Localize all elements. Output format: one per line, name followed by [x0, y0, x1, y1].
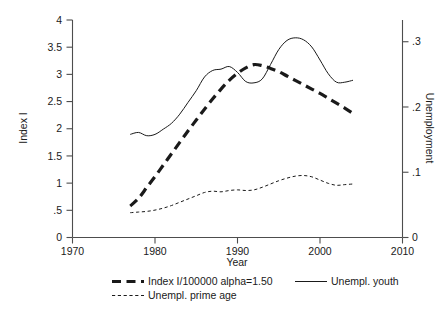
y-tick-label: 0	[56, 231, 62, 243]
legend-label-2: Unempl. prime age	[148, 289, 237, 301]
x-tick-label: 2010	[391, 245, 415, 257]
y2-tick-label: .3	[412, 35, 421, 47]
x-tick-label: 2000	[308, 245, 332, 257]
y-tick-label: .5	[53, 204, 62, 216]
y2-tick-label: .2	[412, 101, 421, 113]
y2-tick-label: 0	[412, 231, 418, 243]
x-tick-label: 1980	[143, 245, 167, 257]
y-tick-label: 3	[56, 68, 62, 80]
line-chart: 0.511.522.533.54 0.1.2.3 197019801990200…	[0, 0, 446, 318]
y2-axis-title: Unemployment	[424, 93, 436, 164]
y-tick-label: 1.5	[47, 150, 62, 162]
x-axis-title: Year	[226, 256, 248, 268]
chart-figure: 0.511.522.533.54 0.1.2.3 197019801990200…	[0, 0, 446, 318]
y-tick-label: 1	[56, 177, 62, 189]
y-axis-title: Index I	[17, 112, 29, 144]
y-tick-label: 2	[56, 122, 62, 134]
x-tick-label: 1970	[61, 245, 85, 257]
legend-label-0: Index I/100000 alpha=1.50	[148, 275, 273, 287]
legend-label-1: Unempl. youth	[331, 275, 399, 287]
y-tick-label: 2.5	[47, 95, 62, 107]
y-tick-label: 3.5	[47, 41, 62, 53]
y-tick-label: 4	[56, 14, 62, 26]
y2-tick-label: .1	[412, 166, 421, 178]
